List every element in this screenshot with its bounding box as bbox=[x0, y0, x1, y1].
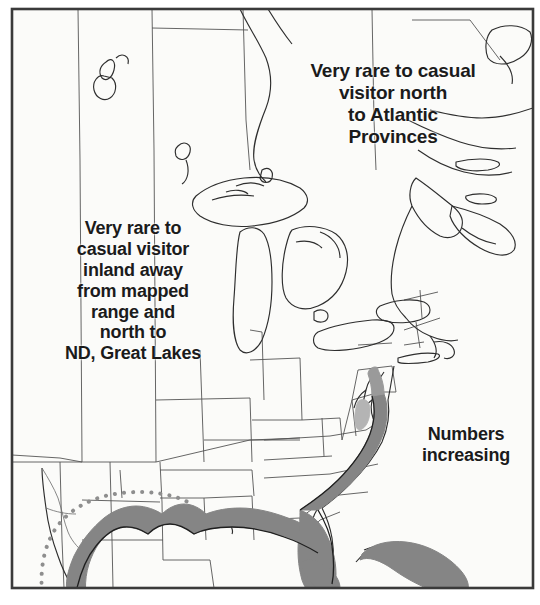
range-map-figure: Very rare to casual visitor north to Atl… bbox=[0, 0, 540, 605]
annotation-inland-nd-great-lakes: Very rare to casual visitor inland away … bbox=[38, 218, 228, 364]
annotation-numbers-increasing: Numbers increasing bbox=[408, 424, 524, 466]
annotation-atlantic-provinces: Very rare to casual visitor north to Atl… bbox=[298, 60, 488, 148]
